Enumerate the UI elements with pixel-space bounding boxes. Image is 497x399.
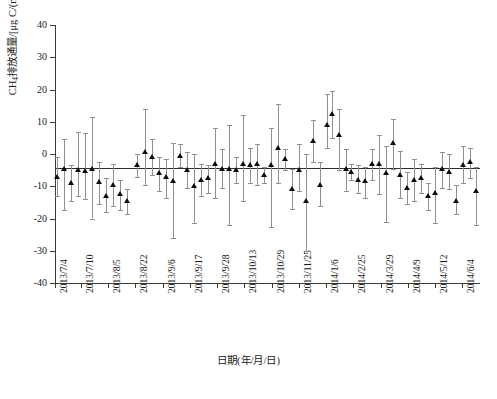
error-bar [78,132,79,196]
error-bar-cap-lower [426,210,431,211]
error-bar-cap-upper [447,154,452,155]
x-tick-label: 2013/9/6 [167,259,177,293]
data-point-marker [54,174,60,179]
error-bar-cap-lower [344,191,349,192]
error-bar-cap-upper [318,162,323,163]
data-point-marker [205,175,211,180]
x-tick-label: 2014/4/9 [412,259,422,293]
mean-reference-line [55,168,480,169]
data-point-marker [467,159,473,164]
data-point-marker [329,111,335,116]
error-bar-cap-lower [171,238,176,239]
y-axis-title-text: CH4排放通量/[μg C/(m2 · h)] [7,0,18,95]
error-bar-cap-upper [384,146,389,147]
error-bar-cap-upper [164,159,169,160]
error-bar-cap-upper [468,148,473,149]
error-bar [278,104,279,183]
error-bar-cap-upper [178,144,183,145]
y-tick: -30 [50,251,55,252]
data-point-marker [110,182,116,187]
x-axis-title: 日期(年/月/日) [0,352,497,367]
error-bar-cap-upper [349,164,354,165]
error-bar [327,94,328,147]
error-bar-cap-upper [171,143,176,144]
error-bar-cap-upper [269,128,274,129]
error-bar-cap-lower [318,206,323,207]
error-bar-cap-lower [164,198,169,199]
y-tick-label: 10 [37,115,47,128]
data-point-marker [383,170,389,175]
data-point-marker [390,140,396,145]
x-tick [381,283,382,288]
data-point-marker [156,170,162,175]
x-tick [55,283,56,288]
data-point-marker [446,169,452,174]
error-bar-cap-lower [255,185,260,186]
x-tick-label: 2013/9/28 [221,254,231,293]
error-bar-cap-lower [69,201,74,202]
data-point-marker [453,198,459,203]
x-tick [299,283,300,288]
error-bar [85,133,86,199]
data-point-marker [432,190,438,195]
error-bar-cap-upper [185,152,190,153]
error-bar-cap-lower [185,188,190,189]
data-point-marker [96,179,102,184]
data-point-marker [61,166,67,171]
error-bar-cap-upper [325,94,330,95]
x-tick-label: 2014/3/29 [385,254,395,293]
data-point-marker [149,154,155,159]
x-tick-label: 2013/7/4 [59,259,69,293]
data-point-marker [75,167,81,172]
data-point-marker [198,177,204,182]
error-bar [476,167,477,225]
x-tick [353,283,354,288]
data-point-marker [418,175,424,180]
data-point-marker [68,180,74,185]
y-tick-label: 0 [42,147,47,160]
error-bar-cap-lower [143,185,148,186]
error-bar-cap-lower [311,162,316,163]
data-point-marker [240,161,246,166]
error-bar-cap-lower [405,204,410,205]
figure-caption [0,386,497,399]
error-bar-cap-lower [62,210,67,211]
error-bar-cap-lower [363,198,368,199]
data-point-marker [177,153,183,158]
error-bar-cap-lower [55,196,60,197]
error-bar-cap-lower [125,214,130,215]
data-point-marker [124,198,130,203]
data-point-marker [282,156,288,161]
x-tick [163,283,164,288]
error-bar-cap-upper [199,164,204,165]
error-bar-cap-upper [90,117,95,118]
error-bar [229,125,230,225]
x-tick [108,283,109,288]
data-point-marker [310,138,316,143]
error-bar-cap-lower [419,193,424,194]
error-bar-cap-upper [283,149,288,150]
error-bar-cap-lower [454,214,459,215]
error-bar-cap-upper [104,178,109,179]
error-bar-cap-upper [135,154,140,155]
error-bar-cap-upper [370,149,375,150]
error-bar-cap-upper [227,125,232,126]
x-tick [190,283,191,288]
error-bar-cap-lower [330,138,335,139]
data-point-marker [404,185,410,190]
x-tick [435,283,436,288]
x-tick [217,283,218,288]
y-tick: 40 [50,25,55,26]
data-point-marker [163,174,169,179]
error-bar-cap-lower [283,170,288,171]
data-point-marker [296,167,302,172]
error-bar-cap-upper [69,165,74,166]
error-bar-cap-upper [111,164,116,165]
error-bar-cap-upper [55,157,60,158]
x-tick [135,283,136,288]
error-bar-cap-lower [150,175,155,176]
error-bar-cap-upper [255,144,260,145]
data-point-marker [425,193,431,198]
data-point-marker [376,161,382,166]
error-bar-cap-upper [297,144,302,145]
